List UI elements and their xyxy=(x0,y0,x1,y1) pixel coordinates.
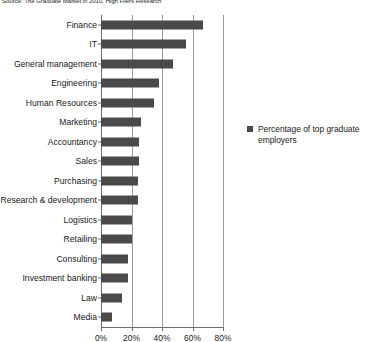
bar-row: Human Resources xyxy=(0,93,369,113)
bar xyxy=(101,98,154,107)
legend-label: Percentage of top graduate employers xyxy=(258,124,365,145)
bar xyxy=(101,176,138,185)
bar xyxy=(101,137,139,146)
category-label: Logistics xyxy=(64,215,97,225)
category-label: Consulting xyxy=(56,254,97,264)
bar xyxy=(101,215,132,224)
bar-row: Consulting xyxy=(0,249,369,269)
category-label: Human Resources xyxy=(26,98,97,108)
bar xyxy=(101,59,173,68)
category-label: Marketing xyxy=(59,117,97,127)
x-tick-label: 80% xyxy=(215,333,232,342)
bar xyxy=(101,157,139,166)
source-note: Source: The Graduate Market in 2010, Hig… xyxy=(2,0,161,5)
category-label: Sales xyxy=(76,156,98,166)
category-label: General management xyxy=(14,59,97,69)
x-tick xyxy=(132,327,133,331)
bar-row: General management xyxy=(0,54,369,74)
category-label: IT xyxy=(89,39,97,49)
bar xyxy=(101,293,122,302)
bar-row: Investment banking xyxy=(0,269,369,289)
x-tick xyxy=(162,327,163,331)
bar xyxy=(101,196,138,205)
bar-row: Research & development xyxy=(0,191,369,211)
bar-row: Logistics xyxy=(0,210,369,230)
bar-chart: FinanceITGeneral managementEngineeringHu… xyxy=(0,11,369,342)
legend: Percentage of top graduate employers xyxy=(247,124,365,145)
bar-row: IT xyxy=(0,35,369,55)
bar-row: Finance xyxy=(0,15,369,35)
category-label: Law xyxy=(81,293,97,303)
category-label: Accountancy xyxy=(48,137,97,147)
bar xyxy=(101,254,128,263)
category-label: Media xyxy=(74,312,97,322)
x-tick-label: 20% xyxy=(123,333,140,342)
bar-row: Media xyxy=(0,308,369,328)
bar xyxy=(101,20,203,29)
legend-square-icon xyxy=(247,126,253,132)
bar xyxy=(101,274,128,283)
bar-row: Sales xyxy=(0,152,369,172)
bar-row: Retailing xyxy=(0,230,369,250)
category-label: Research & development xyxy=(1,195,98,205)
category-label: Purchasing xyxy=(54,176,97,186)
bar xyxy=(101,313,112,322)
category-label: Engineering xyxy=(51,78,97,88)
x-tick-label: 60% xyxy=(184,333,201,342)
bar-row: Law xyxy=(0,288,369,308)
bar-row: Engineering xyxy=(0,74,369,94)
x-tick-label: 40% xyxy=(154,333,171,342)
bar xyxy=(101,40,186,49)
category-label: Retailing xyxy=(64,234,97,244)
bar xyxy=(101,118,141,127)
bar xyxy=(101,79,159,88)
x-tick xyxy=(193,327,194,331)
bar-row: Purchasing xyxy=(0,171,369,191)
bar xyxy=(101,235,132,244)
category-label: Investment banking xyxy=(22,273,97,283)
x-tick xyxy=(101,327,102,331)
category-label: Finance xyxy=(66,20,97,30)
x-tick xyxy=(223,327,224,331)
x-tick-label: 0% xyxy=(95,333,107,342)
